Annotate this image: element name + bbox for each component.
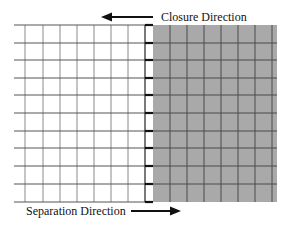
diagram-canvas: Closure Direction Separation Direction [0, 0, 290, 226]
white-grid-region [14, 25, 145, 202]
closure-direction-label: Closure Direction [161, 10, 247, 24]
interface-strip [145, 25, 153, 202]
closure-arrow-icon [101, 13, 153, 22]
separation-direction-label: Separation Direction [26, 204, 126, 218]
crack-interface-diagram: Closure Direction Separation Direction [0, 0, 290, 226]
separation-arrow-icon [131, 207, 181, 216]
gray-grid-region [153, 25, 277, 202]
